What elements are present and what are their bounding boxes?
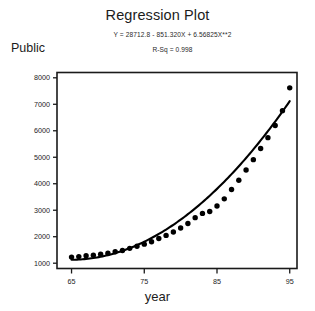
data-point [149,239,154,244]
data-point [200,211,205,216]
data-point [287,85,292,90]
data-point [83,253,88,258]
y-tick-label: 7000 [34,100,50,109]
data-point [171,229,176,234]
y-axis-ticks: 10002000300040005000600070008000 [34,73,57,267]
data-point [120,248,125,253]
data-point [222,196,227,201]
data-point [127,246,132,251]
data-point [272,123,277,128]
x-axis-ticks: 65758595 [68,269,294,286]
data-point [214,203,219,208]
x-tick-label: 85 [213,277,221,286]
regression-curve [72,101,290,260]
y-tick-label: 4000 [34,179,50,188]
data-point [91,253,96,258]
data-point [112,249,117,254]
data-point [142,241,147,246]
data-point [134,244,139,249]
data-point [280,108,285,113]
data-point [192,215,197,220]
data-point [243,167,248,172]
data-point [236,178,241,183]
y-tick-label: 5000 [34,153,50,162]
y-tick-label: 3000 [34,206,50,215]
data-point [98,251,103,256]
data-point [185,221,190,226]
data-point [163,233,168,238]
data-point [156,236,161,241]
data-point [265,135,270,140]
data-point [76,254,81,259]
y-tick-label: 8000 [34,73,50,82]
plot-canvas: 10002000300040005000600070008000 6575859… [0,0,315,311]
regression-plot-figure: Regression Plot Y = 28712.8 - 851.320X +… [0,0,315,311]
x-tick-label: 65 [68,277,76,286]
x-tick-label: 95 [286,277,294,286]
y-tick-label: 1000 [34,259,50,268]
y-tick-label: 2000 [34,232,50,241]
data-point [251,157,256,162]
data-point [207,209,212,214]
data-point [178,225,183,230]
data-point [69,254,74,259]
data-point [105,250,110,255]
x-tick-label: 75 [140,277,148,286]
axis-frame [57,73,297,269]
data-point [258,146,263,151]
data-point [229,187,234,192]
data-points [69,85,293,260]
y-tick-label: 6000 [34,126,50,135]
